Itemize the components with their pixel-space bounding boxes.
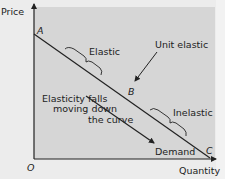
point-c-label: C [206, 146, 213, 156]
x-axis-label: Quantity [179, 166, 220, 176]
elasticity-note-line3: the curve [88, 115, 133, 125]
demand-label: Demand [155, 147, 195, 157]
y-axis-label: Price [1, 7, 24, 17]
origin-label: O [27, 163, 34, 173]
inelastic-label: Inelastic [173, 108, 213, 118]
unit-elastic-label: Unit elastic [155, 40, 208, 50]
plot-area [34, 7, 215, 159]
point-b-label: B [128, 87, 135, 97]
elastic-label: Elastic [89, 47, 120, 57]
point-a-label: A [37, 26, 44, 36]
elasticity-note-line2: moving down [53, 104, 117, 114]
